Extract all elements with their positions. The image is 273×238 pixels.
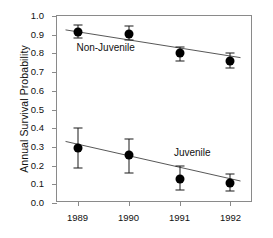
error-bar-cap	[226, 68, 235, 69]
y-axis-tick: 0.1	[52, 184, 57, 185]
y-axis-tick: 1.0	[52, 16, 57, 17]
error-bar-cap	[175, 190, 184, 191]
chart-figure: Annual Survival Probability 0.00.10.20.3…	[0, 0, 273, 238]
x-axis-tick-label: 1992	[220, 213, 241, 223]
x-axis-tick-label: 1991	[169, 213, 190, 223]
trend-line	[66, 141, 241, 181]
x-axis-tick-label: 1990	[118, 213, 139, 223]
x-axis-tick: 1991	[180, 201, 181, 206]
error-bar-cap	[175, 46, 184, 47]
y-axis-tick: 0.5	[52, 110, 57, 111]
error-bar-cap	[124, 26, 133, 27]
y-axis-tick: 0.9	[52, 35, 57, 36]
y-axis-tick: 0.0	[52, 203, 57, 204]
y-axis-tick: 0.2	[52, 166, 57, 167]
x-axis-tick: 1990	[129, 201, 130, 206]
y-axis-tick-label: 0.9	[31, 30, 44, 40]
series-label-non-juvenile: Non-Juvenile	[76, 41, 134, 52]
data-point	[175, 49, 184, 58]
error-bar-cap	[73, 38, 82, 39]
y-axis-tick-label: 0.6	[31, 86, 44, 96]
y-axis-tick-label: 0.0	[31, 198, 44, 208]
data-point	[124, 29, 133, 38]
y-axis-tick-label: 0.2	[31, 161, 44, 171]
y-axis-tick-label: 0.4	[31, 123, 44, 133]
error-bar-cap	[73, 128, 82, 129]
series-label-juvenile: Juvenile	[174, 147, 211, 158]
y-axis-tick-label: 0.3	[31, 142, 44, 152]
data-point	[124, 151, 133, 160]
data-point	[73, 27, 82, 36]
data-point	[226, 56, 235, 65]
y-axis-tick-label: 0.7	[31, 67, 44, 77]
error-bar-cap	[226, 53, 235, 54]
error-bar-cap	[175, 165, 184, 166]
x-axis-tick: 1989	[78, 201, 79, 206]
y-axis-tick: 0.7	[52, 72, 57, 73]
error-bar-cap	[73, 25, 82, 26]
x-axis-tick-label: 1989	[67, 213, 88, 223]
error-bar-cap	[124, 173, 133, 174]
y-axis-title: Annual Survival Probability	[18, 9, 30, 209]
y-axis-tick: 0.8	[52, 53, 57, 54]
y-axis-tick-label: 0.1	[31, 180, 44, 190]
y-axis-tick: 0.6	[52, 91, 57, 92]
error-bar-cap	[175, 60, 184, 61]
error-bar-cap	[226, 190, 235, 191]
x-axis-tick: 1992	[230, 201, 231, 206]
y-axis-tick-label: 0.8	[31, 49, 44, 59]
y-axis-tick: 0.4	[52, 128, 57, 129]
y-axis-tick: 0.3	[52, 147, 57, 148]
data-point	[73, 143, 82, 152]
error-bar-cap	[73, 168, 82, 169]
error-bar-cap	[226, 174, 235, 175]
y-axis-tick-label: 1.0	[31, 11, 44, 21]
data-point	[226, 179, 235, 188]
data-point	[175, 175, 184, 184]
error-bar-cap	[124, 139, 133, 140]
y-axis-tick-label: 0.5	[31, 105, 44, 115]
plot-area: 0.00.10.20.30.40.50.60.70.80.91.01989199…	[56, 15, 252, 202]
